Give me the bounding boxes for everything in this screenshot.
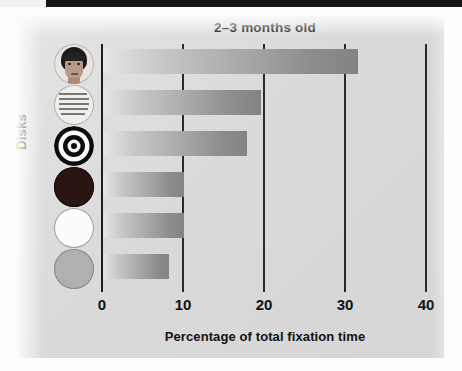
bar-white-disk (103, 213, 184, 238)
bullseye-disk-icon (54, 126, 94, 166)
gridline-10 (182, 44, 184, 292)
disk-legend-column (52, 44, 98, 292)
bar-newsprint-disk (103, 90, 261, 115)
newsprint-line (59, 103, 89, 105)
x-axis-label: Percentage of total fixation time (100, 329, 430, 344)
newsprint-line (59, 98, 89, 100)
newsprint-disk-icon (54, 85, 94, 125)
xtick-label-30: 30 (337, 296, 354, 313)
face-left-eye-shape (68, 63, 71, 65)
plot-area: 0 10 20 30 40 (101, 44, 425, 292)
gridline-20 (263, 44, 265, 292)
face-right-eye-shape (77, 63, 80, 65)
gridline-40 (425, 44, 427, 292)
chart-title: 2–3 months old (100, 20, 430, 35)
xtick-label-0: 0 (98, 296, 106, 313)
y-axis-label: Disks (14, 114, 29, 150)
xtick-label-10: 10 (175, 296, 192, 313)
newsprint-line (59, 108, 88, 110)
newsprint-line (59, 93, 87, 95)
xtick-label-20: 20 (256, 296, 273, 313)
bar-face-disk (103, 49, 358, 74)
yellow-disk-icon (54, 249, 94, 289)
white-disk-icon (54, 208, 94, 248)
red-disk-icon (54, 167, 94, 207)
face-fringe-shape (64, 53, 84, 61)
page-top-black-strip (0, 0, 462, 7)
face-neck-shape (68, 78, 80, 84)
bar-bullseye-disk (103, 131, 247, 156)
bullseye-center-dot (71, 143, 77, 149)
face-disk-icon (54, 44, 94, 84)
face-mouth-shape (71, 73, 78, 75)
figure-page: 2–3 months old Disks (0, 0, 462, 371)
bar-yellow-disk (103, 254, 169, 279)
gridline-30 (344, 44, 346, 292)
page-top-strip-notch (0, 0, 46, 7)
bar-red-disk (103, 172, 184, 197)
xtick-label-40: 40 (418, 296, 435, 313)
newsprint-line (61, 113, 85, 115)
